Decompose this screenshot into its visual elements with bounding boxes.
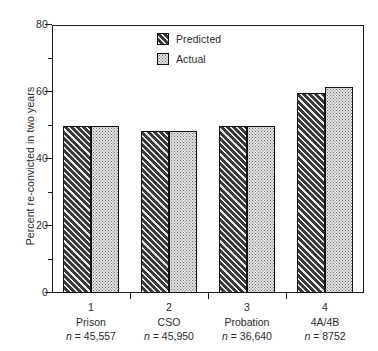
x-group-n-3: n = 36,640 — [208, 329, 286, 344]
x-group-label-3: 3Probationn = 36,640 — [208, 300, 286, 344]
x-tick-2 — [208, 293, 209, 299]
bar-actual-group-1 — [91, 126, 119, 294]
y-tick-label-80: 80 — [22, 18, 48, 30]
x-group-name-1: Prison — [52, 315, 130, 330]
bar-actual-group-3 — [247, 126, 275, 294]
y-minor-tick-30 — [48, 192, 52, 193]
legend-label-predicted: Predicted — [176, 33, 221, 45]
bar-predicted-group-1 — [63, 126, 91, 294]
bar-chart: Percent re-convicted in two years 806040… — [0, 0, 378, 351]
x-group-name-2: CSO — [130, 315, 208, 330]
x-group-number-1: 1 — [52, 300, 130, 315]
x-group-n-2: n = 45,950 — [130, 329, 208, 344]
y-axis-title: Percent re-convicted in two years — [24, 41, 36, 291]
legend-item-predicted: Predicted — [157, 31, 221, 47]
bar-predicted-group-4 — [297, 93, 325, 293]
bar-predicted-group-2 — [141, 131, 169, 293]
bar-actual-group-2 — [169, 131, 197, 293]
x-group-number-2: 2 — [130, 300, 208, 315]
legend-item-actual: Actual — [157, 51, 221, 67]
bar-actual-group-4 — [325, 87, 353, 293]
x-group-n-4: n = 8752 — [286, 329, 364, 344]
x-group-name-4: 4A/4B — [286, 315, 364, 330]
y-tick-label-40: 40 — [22, 152, 48, 164]
y-tick-label-20: 20 — [22, 219, 48, 231]
y-tick-label-0: 0 — [22, 286, 48, 298]
legend-swatch-actual-icon — [157, 53, 169, 65]
x-tick-1 — [130, 293, 131, 299]
x-group-label-2: 2CSOn = 45,950 — [130, 300, 208, 344]
legend: Predicted Actual — [157, 31, 221, 71]
x-group-label-1: 1Prisonn = 45,557 — [52, 300, 130, 344]
y-tick-label-60: 60 — [22, 85, 48, 97]
x-group-number-3: 3 — [208, 300, 286, 315]
bar-predicted-group-3 — [219, 126, 247, 294]
x-tick-3 — [286, 293, 287, 299]
legend-label-actual: Actual — [176, 53, 206, 65]
y-minor-tick-10 — [48, 259, 52, 260]
y-minor-tick-50 — [48, 125, 52, 126]
x-group-n-1: n = 45,557 — [52, 329, 130, 344]
x-group-number-4: 4 — [286, 300, 364, 315]
y-minor-tick-70 — [48, 58, 52, 59]
legend-swatch-predicted-icon — [157, 33, 169, 45]
x-group-name-3: Probation — [208, 315, 286, 330]
x-group-label-4: 44A/4Bn = 8752 — [286, 300, 364, 344]
